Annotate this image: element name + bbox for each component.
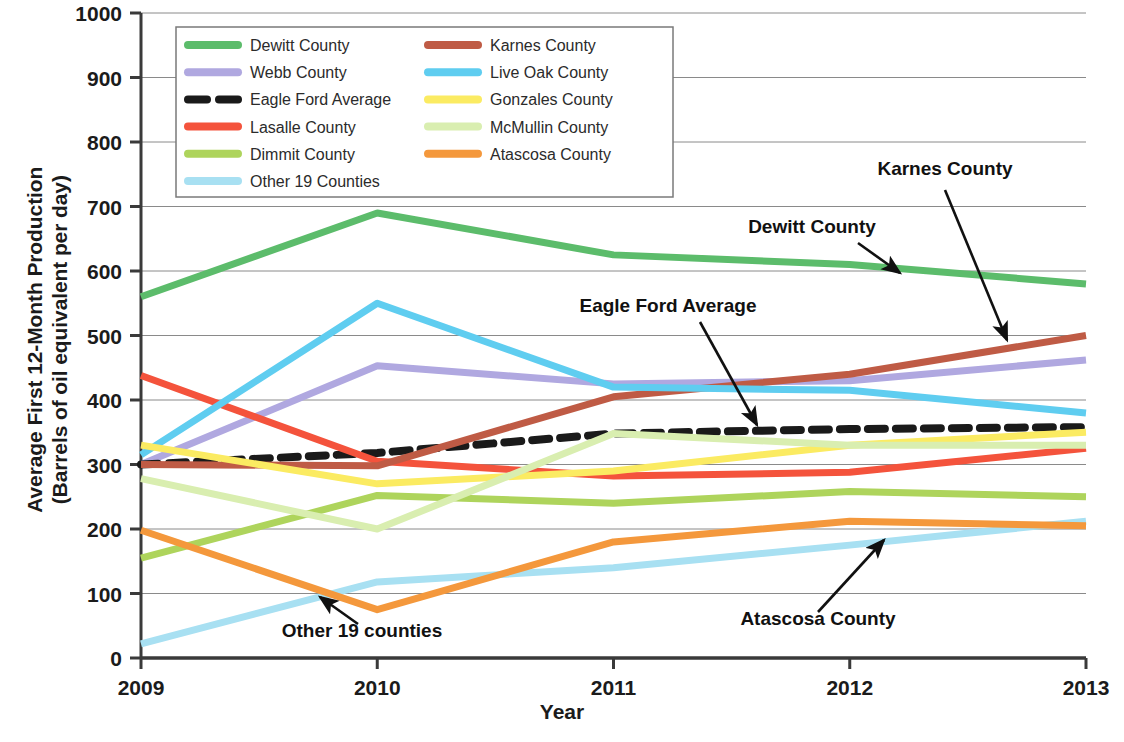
annotation-label: Karnes County: [877, 158, 1013, 179]
x-axis-ticks: 20092010201120122013: [118, 658, 1110, 699]
x-tick-label: 2009: [118, 676, 165, 699]
x-axis-title: Year: [0, 700, 1124, 724]
legend-label: Live Oak County: [490, 64, 608, 81]
series-line: [141, 360, 1086, 464]
y-tick-label: 600: [87, 260, 122, 283]
y-tick-label: 200: [87, 518, 122, 541]
legend-label: Gonzales County: [490, 91, 613, 108]
legend-label: McMullin County: [490, 119, 608, 136]
y-tick-label: 700: [87, 196, 122, 219]
y-tick-label: 1000: [75, 2, 122, 25]
annotation-label: Dewitt County: [748, 216, 876, 237]
annotation-label: Other 19 counties: [282, 620, 443, 641]
chart-root: Average First 12-Month Production (Barre…: [0, 0, 1124, 742]
annotation-label: Eagle Ford Average: [579, 295, 756, 316]
line-chart-svg: 01002003004005006007008009001000 2009201…: [0, 0, 1124, 742]
y-tick-label: 800: [87, 131, 122, 154]
legend-label: Webb County: [250, 64, 347, 81]
annotation-arrow-icon: [700, 322, 757, 425]
series-lines: [141, 213, 1086, 644]
legend-label: Atascosa County: [490, 146, 611, 163]
x-tick-label: 2013: [1063, 676, 1110, 699]
y-tick-label: 900: [87, 67, 122, 90]
legend-label: Lasalle County: [250, 119, 356, 136]
chart-legend: Dewitt CountyWebb CountyEagle Ford Avera…: [176, 27, 673, 197]
series-line: [141, 213, 1086, 297]
annotation-arrow-icon: [945, 190, 1007, 340]
legend-label: Other 19 Counties: [250, 173, 380, 190]
y-tick-label: 400: [87, 389, 122, 412]
x-tick-label: 2012: [826, 676, 873, 699]
series-line: [141, 434, 1086, 529]
y-tick-label: 500: [87, 325, 122, 348]
x-tick-label: 2011: [591, 676, 637, 699]
legend-label: Eagle Ford Average: [250, 91, 391, 108]
y-tick-label: 100: [87, 583, 122, 606]
legend-label: Karnes County: [490, 37, 596, 54]
y-axis-ticks: 01002003004005006007008009001000: [75, 2, 141, 670]
y-tick-label: 0: [110, 647, 122, 670]
annotation-arrow-icon: [818, 540, 884, 612]
legend-label: Dimmit County: [250, 146, 355, 163]
y-tick-label: 300: [87, 454, 122, 477]
legend-label: Dewitt County: [250, 37, 350, 54]
x-tick-label: 2010: [354, 676, 401, 699]
